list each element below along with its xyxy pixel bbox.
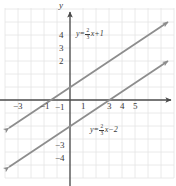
y-tick-minus-1: −1 xyxy=(55,103,65,112)
x-tick-5: 5 xyxy=(133,102,138,111)
equation-upper-denominator: 3 xyxy=(85,34,90,41)
y-tick-4: 4 xyxy=(59,31,64,40)
x-tick-1: 1 xyxy=(81,102,86,111)
y-axis-label: y xyxy=(59,1,63,10)
equation-lower-constant: 2 xyxy=(114,125,118,134)
graph-figure: y 4 3 2 −1 −3 −4 −3 −1 1 3 4 5 y=23x+1 y… xyxy=(0,0,176,186)
equation-lower-fraction: 23 xyxy=(99,124,104,136)
line-lower xyxy=(9,61,168,167)
equation-upper-equals: = xyxy=(80,29,85,38)
equation-upper-fraction: 23 xyxy=(85,28,90,40)
equation-lower-denominator: 3 xyxy=(99,130,104,137)
equation-upper-constant: 1 xyxy=(100,29,104,38)
y-tick-2: 2 xyxy=(59,57,64,66)
y-tick-3: 3 xyxy=(59,44,64,53)
x-tick-3: 3 xyxy=(107,102,112,111)
x-tick-minus-1: −1 xyxy=(40,102,50,111)
equation-label-upper: y=23x+1 xyxy=(76,28,104,40)
x-tick-4: 4 xyxy=(120,102,125,111)
equation-lower-equals: = xyxy=(94,125,99,134)
y-tick-minus-4: −4 xyxy=(55,154,65,163)
x-tick-minus-3: −3 xyxy=(13,102,23,111)
equation-label-lower: y=23x−2 xyxy=(90,124,118,136)
y-tick-minus-3: −3 xyxy=(55,141,65,150)
